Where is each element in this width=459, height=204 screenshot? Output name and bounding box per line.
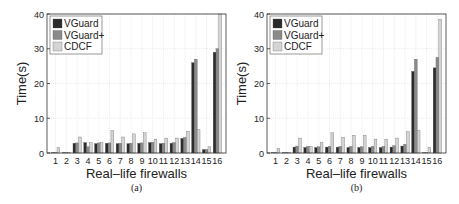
x-axis-label: Real–life firewalls bbox=[306, 166, 408, 181]
bar-vguard-9 bbox=[358, 147, 361, 153]
y-axis-label: Time(s) bbox=[234, 62, 249, 106]
y-tick-label: 20 bbox=[34, 79, 44, 89]
bar-vguard-11 bbox=[379, 147, 382, 153]
legend-label: CDCF bbox=[284, 41, 312, 52]
chart-b: 12345678910111213141516010203040Real–lif… bbox=[220, 0, 449, 204]
bar-cdcf-14 bbox=[417, 130, 420, 153]
bar-vguard-9 bbox=[138, 143, 141, 153]
bar-vguardplus-15 bbox=[205, 150, 208, 153]
bar-vguard-6 bbox=[325, 147, 328, 153]
bar-cdcf-4 bbox=[309, 146, 312, 153]
x-tick-label: 5 bbox=[96, 156, 101, 166]
bar-cdcf-1 bbox=[57, 148, 60, 153]
y-tick-label: 10 bbox=[254, 114, 264, 124]
legend-label: VGuard+ bbox=[284, 30, 324, 41]
bar-vguardplus-12 bbox=[173, 143, 176, 153]
legend-label: VGuard+ bbox=[64, 30, 104, 41]
x-tick-label: 7 bbox=[338, 156, 343, 166]
x-tick-label: 7 bbox=[118, 156, 123, 166]
x-tick-label: 3 bbox=[75, 156, 80, 166]
bar-vguardplus-11 bbox=[162, 143, 165, 153]
bar-cdcf-9 bbox=[363, 135, 366, 153]
bar-vguardplus-5 bbox=[317, 147, 320, 153]
bar-vguardplus-3 bbox=[76, 143, 79, 153]
bar-vguardplus-6 bbox=[328, 146, 331, 153]
figure-caption: (b) bbox=[351, 182, 363, 194]
bar-vguardplus-9 bbox=[140, 143, 143, 153]
y-tick-label: 40 bbox=[254, 10, 264, 20]
x-tick-label: 4 bbox=[85, 156, 90, 166]
bar-vguard-11 bbox=[159, 144, 162, 153]
x-axis-label: Real–life firewalls bbox=[86, 166, 188, 181]
bar-cdcf-13 bbox=[186, 131, 189, 153]
bar-vguardplus-13 bbox=[184, 137, 187, 153]
bar-vguard-13 bbox=[401, 146, 404, 153]
bar-cdcf-5 bbox=[100, 143, 103, 153]
y-tick-label: 30 bbox=[34, 44, 44, 54]
bar-vguardplus-8 bbox=[350, 146, 353, 153]
x-tick-label: 11 bbox=[159, 156, 168, 166]
x-tick-label: 8 bbox=[129, 156, 134, 166]
x-tick-label: 9 bbox=[359, 156, 364, 166]
y-axis-label: Time(s) bbox=[14, 62, 29, 106]
legend-swatch-vguardplus bbox=[273, 31, 282, 40]
bar-vguard-16 bbox=[213, 52, 216, 153]
bar-vguardplus-4 bbox=[87, 147, 90, 153]
x-tick-label: 6 bbox=[327, 156, 332, 166]
x-tick-label: 13 bbox=[400, 156, 410, 166]
x-tick-label: 3 bbox=[295, 156, 300, 166]
x-tick-label: 15 bbox=[422, 156, 432, 166]
legend: VGuardVGuard+CDCF bbox=[50, 16, 104, 54]
bar-cdcf-6 bbox=[331, 133, 334, 153]
bar-cdcf-3 bbox=[79, 137, 82, 153]
x-tick-label: 8 bbox=[349, 156, 354, 166]
y-tick-label: 0 bbox=[39, 149, 44, 159]
bar-vguard-4 bbox=[304, 147, 307, 153]
bar-vguard-15 bbox=[202, 150, 205, 153]
bar-vguardplus-13 bbox=[404, 144, 407, 153]
bar-cdcf-11 bbox=[165, 138, 168, 153]
bar-vguardplus-16 bbox=[436, 57, 439, 153]
bar-cdcf-15 bbox=[428, 147, 431, 153]
bar-vguard-10 bbox=[148, 143, 151, 153]
x-tick-label: 14 bbox=[191, 156, 201, 166]
x-tick-label: 2 bbox=[284, 156, 289, 166]
y-tick-label: 0 bbox=[259, 149, 264, 159]
x-tick-label: 4 bbox=[305, 156, 310, 166]
bar-vguardplus-16 bbox=[216, 49, 219, 153]
legend-swatch-vguard bbox=[273, 19, 282, 28]
bar-vguard-14 bbox=[192, 63, 195, 153]
bar-vguardplus-7 bbox=[339, 146, 342, 153]
bar-vguard-16 bbox=[433, 68, 436, 153]
bar-cdcf-10 bbox=[374, 139, 377, 153]
x-tick-label: 15 bbox=[202, 156, 212, 166]
bar-vguardplus-12 bbox=[393, 146, 396, 153]
chart-a: 12345678910111213141516010203040Real–lif… bbox=[0, 0, 229, 204]
bar-cdcf-10 bbox=[154, 139, 157, 153]
bar-vguardplus-4 bbox=[307, 146, 310, 153]
x-tick-label: 10 bbox=[148, 156, 158, 166]
bar-cdcf-8 bbox=[353, 135, 356, 153]
bar-vguard-8 bbox=[347, 147, 350, 153]
bar-vguardplus-10 bbox=[371, 146, 374, 153]
bar-vguard-12 bbox=[170, 143, 173, 153]
bar-cdcf-9 bbox=[143, 133, 146, 153]
bar-vguardplus-8 bbox=[130, 143, 133, 153]
legend-label: CDCF bbox=[64, 41, 92, 52]
bar-vguard-3 bbox=[293, 147, 296, 153]
bar-vguard-10 bbox=[368, 147, 371, 153]
bar-vguardplus-3 bbox=[296, 146, 299, 153]
x-tick-label: 12 bbox=[389, 156, 399, 166]
bar-vguard-14 bbox=[412, 71, 415, 153]
x-tick-label: 11 bbox=[379, 156, 388, 166]
legend-label: VGuard bbox=[284, 18, 318, 29]
x-tick-label: 1 bbox=[273, 156, 278, 166]
bar-vguard-7 bbox=[116, 144, 119, 153]
bar-vguardplus-10 bbox=[151, 142, 154, 153]
bar-vguard-7 bbox=[336, 147, 339, 153]
bar-cdcf-8 bbox=[133, 134, 136, 153]
legend-swatch-vguardplus bbox=[53, 31, 62, 40]
bar-vguard-13 bbox=[181, 138, 184, 153]
chart-svg: 12345678910111213141516010203040Real–lif… bbox=[0, 0, 239, 204]
bar-vguard-4 bbox=[84, 143, 87, 153]
